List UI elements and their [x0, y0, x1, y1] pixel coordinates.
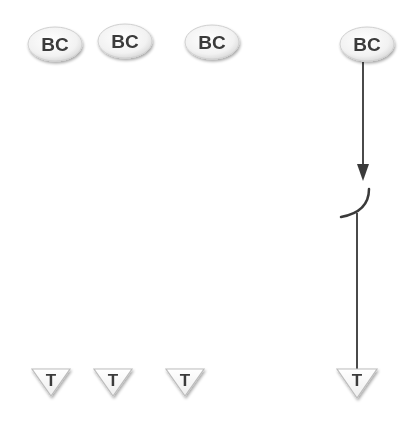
switch-arc: [341, 189, 369, 217]
arrow-head-icon: [357, 164, 369, 181]
bc-node-1[interactable]: BC: [28, 27, 82, 61]
t-node-4[interactable]: T: [337, 369, 377, 398]
diagram-canvas: BC BC BC BC T T T T: [0, 0, 419, 424]
bc-node-label: BC: [353, 34, 381, 55]
t-node-2[interactable]: T: [94, 369, 132, 396]
bc-node-4[interactable]: BC: [340, 27, 394, 61]
bc-node-2[interactable]: BC: [98, 24, 152, 58]
bc-node-label: BC: [198, 32, 226, 53]
t-node-label: T: [180, 371, 191, 390]
t-node-label: T: [108, 371, 119, 390]
t-node-1[interactable]: T: [32, 369, 70, 396]
bc-node-label: BC: [111, 31, 139, 52]
bc-node-3[interactable]: BC: [185, 25, 239, 59]
t-node-3[interactable]: T: [166, 369, 204, 396]
bc-node-label: BC: [41, 34, 69, 55]
t-node-label: T: [46, 371, 57, 390]
t-node-label: T: [352, 371, 363, 390]
